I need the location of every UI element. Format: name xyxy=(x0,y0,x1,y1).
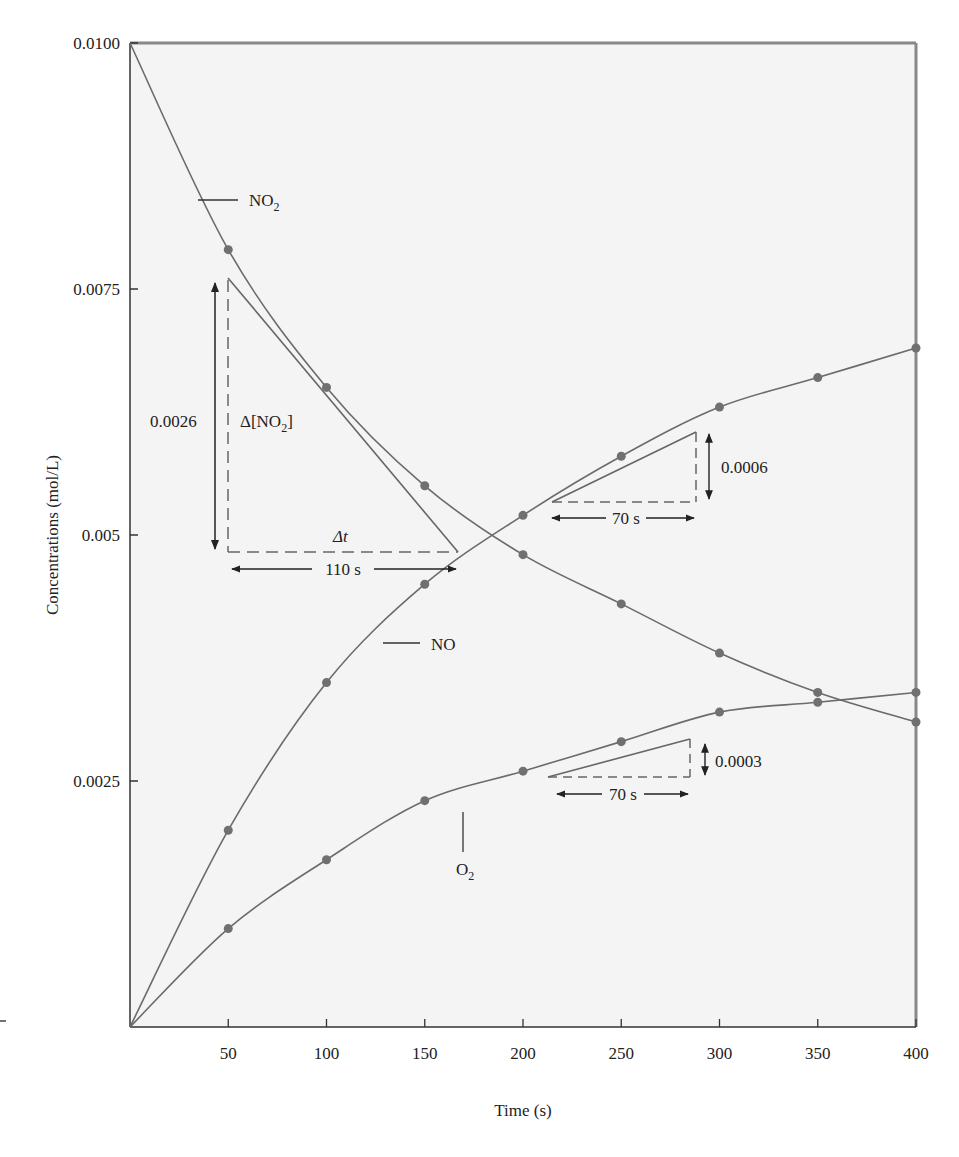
data-point xyxy=(617,452,626,461)
data-point xyxy=(224,826,233,835)
data-point xyxy=(912,344,921,353)
annotation-no-70s: 70 s xyxy=(612,509,640,528)
data-point xyxy=(420,580,429,589)
data-point xyxy=(519,767,528,776)
data-point xyxy=(420,481,429,490)
plot-area xyxy=(130,43,916,1027)
data-point xyxy=(224,245,233,254)
data-point xyxy=(813,373,822,382)
data-point xyxy=(715,708,724,717)
x-tick-label: 400 xyxy=(903,1044,929,1063)
data-point xyxy=(224,924,233,933)
data-point xyxy=(813,698,822,707)
annotation-0026: 0.0026 xyxy=(150,412,197,431)
data-point xyxy=(322,855,331,864)
annotation-o2-70s: 70 s xyxy=(609,785,637,804)
annotation-110s: 110 s xyxy=(325,560,361,579)
data-point xyxy=(617,599,626,608)
concentration-time-chart: 50100150200250300350400 0.00250.0050.007… xyxy=(0,0,959,1157)
data-point xyxy=(519,550,528,559)
y-ticks: 0.00250.0050.00750.0100 xyxy=(73,34,138,791)
x-tick-label: 300 xyxy=(707,1044,733,1063)
annotation-0003: 0.0003 xyxy=(715,752,762,771)
data-point xyxy=(715,403,724,412)
data-point xyxy=(519,511,528,520)
x-tick-label: 50 xyxy=(220,1044,237,1063)
data-point xyxy=(420,796,429,805)
x-tick-label: 200 xyxy=(510,1044,536,1063)
label-no: NO xyxy=(431,635,456,654)
data-point xyxy=(322,678,331,687)
data-point xyxy=(617,737,626,746)
data-point xyxy=(912,688,921,697)
x-tick-label: 350 xyxy=(805,1044,831,1063)
y-axis-label: Concentrations (mol/L) xyxy=(43,455,62,615)
annotation-0006: 0.0006 xyxy=(721,458,768,477)
x-axis-label: Time (s) xyxy=(494,1101,551,1120)
x-tick-label: 250 xyxy=(609,1044,635,1063)
data-point xyxy=(912,717,921,726)
y-tick-label: 0.0025 xyxy=(73,772,120,791)
data-point xyxy=(813,688,822,697)
y-tick-label: 0.0100 xyxy=(73,34,120,53)
data-point xyxy=(715,649,724,658)
y-tick-label: 0.005 xyxy=(82,526,120,545)
x-tick-label: 150 xyxy=(412,1044,438,1063)
annotation-delta-t: Δt xyxy=(332,527,349,546)
y-tick-label: 0.0075 xyxy=(73,280,120,299)
x-tick-label: 100 xyxy=(314,1044,340,1063)
